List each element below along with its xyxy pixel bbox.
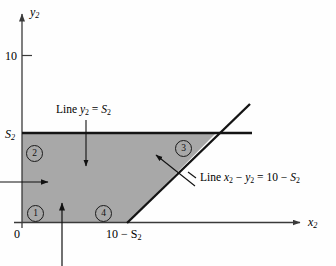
origin-label: 0 [14, 228, 20, 240]
annotation-line-x2-minus-y2: Line x2 − y2 = 10 − S2 [200, 172, 300, 185]
y-axis-label: y2 [30, 6, 39, 20]
figure-vector-layer [0, 0, 336, 266]
x-tick-label-10-minus-s2: 10 − S2 [106, 228, 142, 242]
figure-canvas: y2 x2 10 S2 0 10 − S2 Line y2 = S2 Line … [0, 0, 336, 266]
x-axis-label: x2 [308, 216, 317, 230]
y-tick-label-s2: S2 [5, 128, 15, 142]
region-marker-4: 4 [95, 205, 112, 222]
annotation-leader-line-x2 [188, 172, 196, 178]
annotation-line-y2-equals-s2: Line y2 = S2 [56, 104, 111, 117]
y-tick-label-10: 10 [5, 50, 17, 62]
region-marker-2: 2 [26, 145, 43, 162]
region-marker-3: 3 [175, 140, 192, 157]
region-marker-1: 1 [27, 205, 44, 222]
